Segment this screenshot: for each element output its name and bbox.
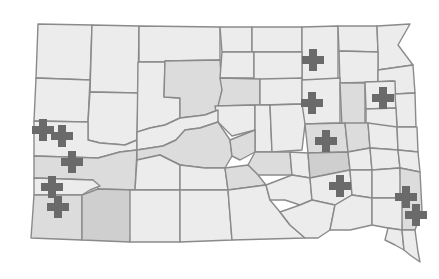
counties-layer: [31, 24, 422, 262]
county-region[interactable]: [339, 51, 378, 83]
county-region[interactable]: [338, 26, 378, 52]
county-region[interactable]: [266, 175, 312, 205]
county-region[interactable]: [218, 78, 260, 106]
county-region[interactable]: [260, 78, 302, 105]
county-region[interactable]: [397, 127, 418, 152]
county-region[interactable]: [220, 52, 254, 78]
county-region[interactable]: [368, 123, 398, 150]
county-region[interactable]: [290, 152, 310, 178]
county-region[interactable]: [340, 83, 365, 127]
county-region[interactable]: [395, 93, 416, 127]
county-region[interactable]: [88, 92, 138, 145]
county-region[interactable]: [252, 27, 302, 52]
county-region[interactable]: [385, 228, 404, 250]
county-region[interactable]: [36, 24, 92, 80]
county-region[interactable]: [345, 123, 370, 152]
county-region[interactable]: [90, 25, 139, 93]
county-region[interactable]: [370, 148, 400, 170]
county-region[interactable]: [348, 148, 372, 170]
county-region[interactable]: [302, 26, 338, 80]
county-region[interactable]: [220, 27, 252, 52]
map-container: [0, 0, 439, 279]
county-region[interactable]: [139, 26, 220, 62]
county-region[interactable]: [130, 190, 180, 242]
county-region[interactable]: [254, 52, 302, 80]
county-region[interactable]: [82, 189, 135, 242]
county-region[interactable]: [180, 190, 232, 242]
county-region[interactable]: [180, 165, 228, 190]
county-region[interactable]: [34, 78, 90, 122]
county-region[interactable]: [270, 104, 305, 152]
south-dakota-county-map: [0, 0, 439, 279]
county-region[interactable]: [372, 198, 402, 230]
county-region[interactable]: [377, 24, 413, 70]
county-region[interactable]: [402, 230, 420, 262]
county-region[interactable]: [350, 170, 372, 198]
county-region[interactable]: [255, 105, 272, 152]
